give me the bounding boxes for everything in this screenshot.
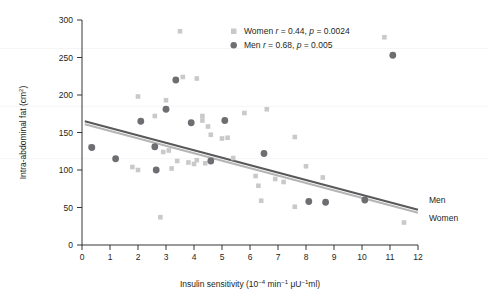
data-point-women	[167, 148, 172, 153]
data-point-women	[153, 114, 158, 119]
data-point-men	[151, 143, 158, 150]
y-axis-title: Intra-abdominal fat (cm2)	[18, 86, 28, 180]
y-tick-label: 250	[59, 53, 73, 63]
data-point-women	[253, 174, 258, 179]
data-point-women	[321, 175, 326, 180]
chart-svg: 050100150200250300 0123456789101112 Wome…	[0, 0, 488, 302]
data-point-men	[112, 155, 119, 162]
data-point-women	[200, 114, 205, 119]
y-tick-label: 0	[68, 240, 73, 250]
data-point-women	[265, 107, 270, 112]
data-point-men	[163, 106, 170, 113]
y-tick-label: 150	[59, 128, 73, 138]
scatter-chart-figure: 050100150200250300 0123456789101112 Wome…	[0, 0, 488, 302]
data-point-women	[206, 124, 211, 129]
data-point-women	[293, 204, 298, 209]
data-point-women	[402, 220, 407, 225]
data-point-women	[231, 156, 236, 161]
x-axis-title: Insulin sensitivity (10−4 min−1 μU−1ml)	[180, 279, 320, 289]
data-point-men	[88, 144, 95, 151]
x-tick-label: 6	[248, 252, 253, 262]
data-point-women	[200, 118, 205, 123]
legend-label-women: Women r = 0.44, p = 0.0024	[244, 26, 350, 36]
y-tick-label: 300	[59, 15, 73, 25]
x-tick-label: 10	[357, 252, 367, 262]
x-tick-label: 3	[164, 252, 169, 262]
x-tick-label: 11	[386, 252, 395, 262]
side-label-men: Men	[429, 195, 446, 205]
data-point-women	[304, 164, 309, 169]
y-tick-label: 50	[64, 203, 74, 213]
data-point-women	[209, 132, 214, 137]
x-tick-label: 12	[413, 252, 423, 262]
data-point-men	[361, 197, 368, 204]
side-label-women: Women	[429, 213, 458, 223]
data-point-men	[322, 199, 329, 206]
data-point-women	[178, 29, 183, 34]
data-point-women	[181, 75, 186, 80]
x-tick-label: 7	[276, 252, 281, 262]
data-point-men	[221, 117, 228, 124]
x-tick-label: 4	[192, 252, 197, 262]
data-point-women	[203, 161, 208, 166]
x-tick-label: 2	[136, 252, 141, 262]
legend-label-men: Men r = 0.68, p = 0.005	[244, 40, 333, 50]
x-tick-label: 5	[220, 252, 225, 262]
data-point-women	[136, 94, 141, 99]
data-point-men	[389, 52, 396, 59]
x-tick-label: 8	[304, 252, 309, 262]
y-tick-label: 100	[59, 165, 73, 175]
data-point-women	[382, 35, 387, 40]
x-tick-label: 9	[332, 252, 337, 262]
data-point-women	[281, 180, 286, 185]
data-point-women	[164, 98, 169, 103]
data-point-men	[261, 150, 268, 157]
legend-marker-men	[231, 42, 237, 48]
data-point-women	[136, 168, 141, 173]
data-point-men	[137, 118, 144, 125]
data-point-women	[175, 159, 180, 164]
data-point-men	[207, 158, 214, 165]
data-point-men	[188, 119, 195, 126]
data-point-women	[195, 76, 200, 81]
data-point-women	[220, 136, 225, 141]
data-point-women	[130, 165, 135, 170]
legend-marker-women	[231, 29, 237, 35]
x-tick-label: 1	[108, 252, 113, 262]
data-point-women	[242, 111, 247, 116]
data-point-women	[195, 158, 200, 163]
data-point-men	[153, 167, 160, 174]
data-point-men	[305, 198, 312, 205]
data-point-women	[259, 198, 264, 203]
data-point-women	[158, 215, 163, 220]
data-point-women	[161, 150, 166, 155]
data-point-women	[256, 183, 261, 188]
data-point-men	[172, 77, 179, 84]
data-point-women	[293, 135, 298, 140]
data-point-women	[225, 135, 230, 140]
data-point-women	[186, 160, 191, 165]
data-point-women	[273, 177, 278, 182]
x-tick-label: 0	[80, 252, 85, 262]
y-tick-label: 200	[59, 90, 73, 100]
data-point-women	[169, 166, 174, 171]
